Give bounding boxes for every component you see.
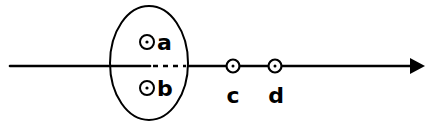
- point-c: c: [226, 60, 239, 109]
- label-d: d: [268, 83, 284, 108]
- label-c: c: [226, 83, 239, 108]
- region-ellipse: [110, 6, 188, 120]
- label-b: b: [157, 76, 173, 101]
- dot-icon: [145, 86, 148, 89]
- point-a: a: [140, 30, 172, 55]
- dot-icon: [145, 40, 148, 43]
- label-a: a: [157, 30, 172, 55]
- dot-icon: [274, 65, 277, 68]
- point-d: d: [268, 60, 284, 109]
- diagram-canvas: a b c d: [0, 0, 434, 126]
- arrowhead-icon: [410, 58, 425, 74]
- dot-icon: [232, 65, 235, 68]
- point-b: b: [140, 76, 173, 101]
